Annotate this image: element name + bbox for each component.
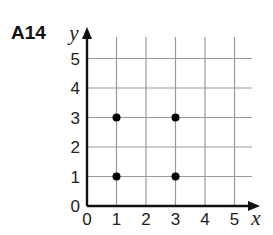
x-tick-label: 4: [200, 210, 209, 229]
data-point: [113, 114, 121, 122]
y-tick-label: 2: [71, 138, 80, 157]
x-tick-label: 3: [171, 210, 180, 229]
coordinate-grid: 012345012345xy: [0, 0, 273, 235]
y-tick-label: 3: [71, 109, 80, 128]
x-tick-label: 5: [230, 210, 239, 229]
x-tick-label: 0: [82, 210, 91, 229]
data-point: [172, 173, 180, 181]
y-tick-label: 0: [71, 197, 80, 216]
data-point: [172, 114, 180, 122]
data-point: [113, 173, 121, 181]
y-tick-label: 1: [71, 168, 80, 187]
y-axis-label: y: [67, 21, 79, 45]
y-axis-arrow-icon: [82, 27, 92, 39]
y-tick-label: 5: [71, 50, 80, 69]
x-tick-label: 1: [112, 210, 121, 229]
x-axis-label: x: [250, 206, 261, 230]
x-tick-label: 2: [141, 210, 150, 229]
y-tick-label: 4: [71, 79, 80, 98]
